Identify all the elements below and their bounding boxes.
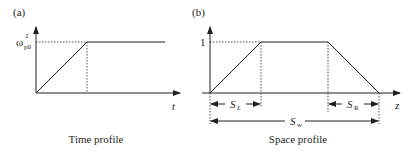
dimension-s-l: S L xyxy=(211,98,260,112)
time-profile-curve xyxy=(36,42,165,93)
svg-text:ω: ω xyxy=(16,36,23,48)
panel-a-title: Time profile xyxy=(69,133,124,145)
dimension-s-r: S R xyxy=(329,98,378,112)
x-axis-label-z: z xyxy=(394,99,400,111)
svg-text:S: S xyxy=(347,98,353,110)
svg-text:R: R xyxy=(354,104,359,112)
y-tick-label-one: 1 xyxy=(200,36,206,48)
diagram-canvas: (a) ω 2 p0 t Time profile (b) xyxy=(0,0,412,157)
x-axis-label-t: t xyxy=(172,100,176,112)
svg-text:2: 2 xyxy=(25,32,29,40)
svg-text:w: w xyxy=(297,121,303,129)
y-tick-label-omega: ω 2 p0 xyxy=(16,32,32,51)
svg-text:p0: p0 xyxy=(24,43,32,51)
svg-text:L: L xyxy=(236,104,241,112)
panel-b-title: Space profile xyxy=(269,133,327,145)
svg-text:S: S xyxy=(290,115,296,127)
svg-text:S: S xyxy=(230,98,236,110)
space-profile-curve xyxy=(210,42,379,93)
panel-time-profile: (a) ω 2 p0 t Time profile xyxy=(13,6,180,145)
panel-a-label: (a) xyxy=(13,6,26,19)
dimension-s-w: S w xyxy=(211,115,378,129)
panel-b-label: (b) xyxy=(192,6,205,19)
panel-space-profile: (b) 1 z S L S R xyxy=(192,6,400,145)
